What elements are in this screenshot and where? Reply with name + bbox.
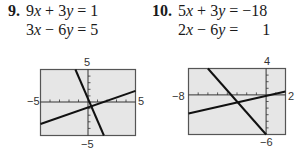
graph-10: 4 −8 2 −6 [0,0,304,150]
plot-area [0,0,304,150]
